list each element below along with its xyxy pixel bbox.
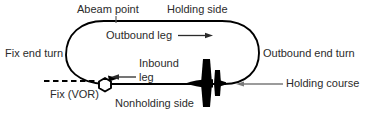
label-fix-vor: Fix (VOR) — [50, 88, 99, 100]
label-holding-side: Holding side — [167, 3, 228, 15]
label-inbound-leg-line2: leg — [139, 71, 154, 83]
label-nonholding-side: Nonholding side — [115, 97, 194, 109]
holding-pattern-diagram: Abeam point Holding side Outbound leg Fi… — [0, 0, 370, 118]
label-outbound-end-turn: Outbound end turn — [263, 47, 355, 59]
label-abeam-point: Abeam point — [77, 3, 139, 15]
outbound-leg-arrow — [178, 33, 213, 38]
holding-course-leader — [236, 81, 283, 86]
label-inbound-leg-line1: Inbound — [139, 57, 179, 69]
label-holding-course: Holding course — [286, 77, 359, 89]
label-outbound-leg: Outbound leg — [106, 29, 172, 41]
label-fix-end-turn: Fix end turn — [5, 47, 63, 59]
